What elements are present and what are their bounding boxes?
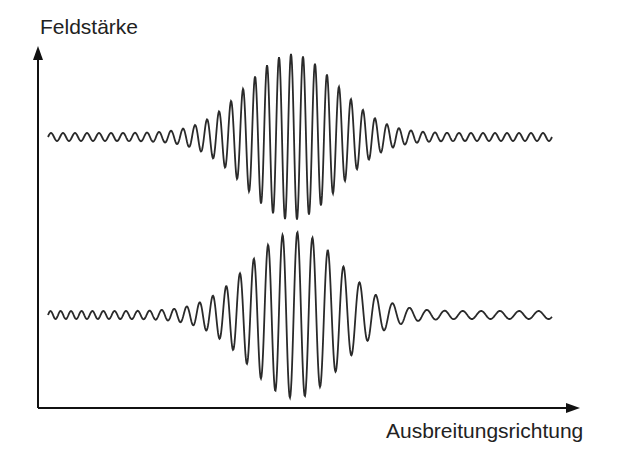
y-axis-label: Feldstärke [40,15,138,39]
wave-packet-top [48,54,552,220]
y-axis-arrow-icon [33,46,43,60]
x-axis-arrow-icon [566,403,580,413]
x-axis [38,403,580,413]
wave-packet-bottom-chirped [48,232,552,397]
wave-packet-diagram [0,0,623,451]
x-axis-label: Ausbreitungsrichtung [386,419,583,443]
y-axis [33,46,43,408]
